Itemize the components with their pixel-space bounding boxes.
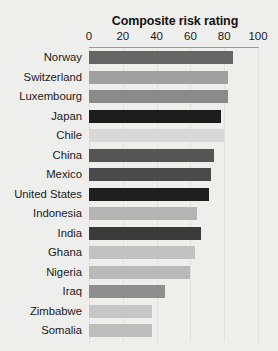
bar-iraq — [89, 285, 165, 298]
bar-united-states — [89, 188, 209, 201]
bar-fill — [89, 71, 228, 84]
bar-somalia — [89, 324, 152, 337]
bar-row: Norway — [0, 49, 278, 69]
bar-category-label: Ghana — [0, 246, 82, 258]
plot-area: NorwaySwitzerlandLuxembourgJapanChileChi… — [0, 48, 278, 343]
bar-china — [89, 149, 214, 162]
bar-row: Japan — [0, 108, 278, 128]
bar-category-label: Indonesia — [0, 207, 82, 219]
bar-fill — [89, 129, 224, 142]
bar-row: Ghana — [0, 244, 278, 264]
bar-category-label: Luxembourg — [0, 90, 82, 102]
bar-category-label: Japan — [0, 110, 82, 122]
bar-india — [89, 227, 201, 240]
x-tick-label-80: 80 — [218, 30, 231, 42]
chart-title: Composite risk rating — [89, 14, 261, 28]
bar-chart: Composite risk rating 020406080100 Norwa… — [0, 0, 278, 351]
bar-ghana — [89, 246, 195, 259]
bar-japan — [89, 110, 221, 123]
x-tick-label-20: 20 — [116, 30, 129, 42]
bar-row: United States — [0, 186, 278, 206]
bar-nigeria — [89, 266, 190, 279]
bar-row: Luxembourg — [0, 88, 278, 108]
bar-row: Zimbabwe — [0, 303, 278, 323]
bar-row: Switzerland — [0, 69, 278, 89]
bar-category-label: India — [0, 227, 82, 239]
bar-fill — [89, 90, 228, 103]
bar-fill — [89, 149, 214, 162]
x-tick-label-60: 60 — [184, 30, 197, 42]
bar-fill — [89, 110, 221, 123]
bar-category-label: Somalia — [0, 324, 82, 336]
bar-fill — [89, 246, 195, 259]
bar-category-label: Chile — [0, 129, 82, 141]
bar-fill — [89, 266, 190, 279]
bar-fill — [89, 51, 233, 64]
bar-row: Indonesia — [0, 205, 278, 225]
bar-category-label: Norway — [0, 51, 82, 63]
bar-category-label: Mexico — [0, 168, 82, 180]
bar-category-label: United States — [0, 188, 82, 200]
bar-chile — [89, 129, 224, 142]
bar-luxembourg — [89, 90, 228, 103]
bar-category-label: Nigeria — [0, 266, 82, 278]
bar-switzerland — [89, 71, 228, 84]
bar-norway — [89, 51, 233, 64]
bar-zimbabwe — [89, 305, 152, 318]
bar-category-label: Iraq — [0, 285, 82, 297]
bar-row: India — [0, 225, 278, 245]
x-axis-tick-labels: 020406080100 — [0, 30, 278, 44]
bar-row: Mexico — [0, 166, 278, 186]
bar-row: Nigeria — [0, 264, 278, 284]
bar-fill — [89, 227, 201, 240]
x-tick-label-40: 40 — [150, 30, 163, 42]
bar-fill — [89, 324, 152, 337]
bar-category-label: Switzerland — [0, 71, 82, 83]
bar-row: Iraq — [0, 283, 278, 303]
bar-fill — [89, 305, 152, 318]
bar-category-label: China — [0, 149, 82, 161]
bar-row: Somalia — [0, 322, 278, 342]
bar-category-label: Zimbabwe — [0, 305, 82, 317]
bar-fill — [89, 207, 197, 220]
bar-row: China — [0, 147, 278, 167]
x-tick-label-0: 0 — [86, 30, 92, 42]
bar-mexico — [89, 168, 211, 181]
bar-fill — [89, 285, 165, 298]
x-tick-label-100: 100 — [248, 30, 267, 42]
bar-fill — [89, 168, 211, 181]
bar-indonesia — [89, 207, 197, 220]
bar-fill — [89, 188, 209, 201]
bar-row: Chile — [0, 127, 278, 147]
